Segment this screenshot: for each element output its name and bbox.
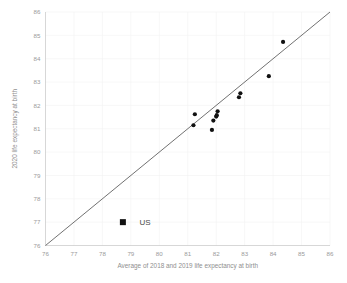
x-tick-label: 86: [327, 250, 334, 257]
y-axis-title: 2020 life expectancy at birth: [11, 89, 19, 169]
data-point: [267, 74, 271, 78]
x-tick-label: 82: [213, 250, 220, 257]
y-tick-label: 80: [34, 148, 41, 155]
x-tick-label: 78: [99, 250, 106, 257]
x-tick-label: 81: [184, 250, 191, 257]
us-legend-label: US: [139, 218, 150, 227]
scatter-plot-figure: 7677787980818283848586 76777879808182838…: [0, 0, 347, 283]
x-tick-label: 77: [71, 250, 78, 257]
x-tick-label: 79: [127, 250, 134, 257]
data-point: [193, 112, 197, 116]
y-tick-label: 86: [34, 8, 41, 15]
y-tick-label: 82: [34, 102, 41, 109]
y-tick-label: 84: [34, 55, 41, 62]
x-tick-label: 80: [156, 250, 163, 257]
us-legend-marker: [120, 219, 126, 225]
y-tick-label: 81: [34, 125, 41, 132]
x-tick-label: 83: [241, 250, 248, 257]
y-tick-label: 83: [34, 78, 41, 85]
data-point: [238, 91, 242, 95]
y-tick-label: 85: [34, 32, 41, 39]
data-point: [237, 95, 241, 99]
y-tick-label: 79: [34, 172, 41, 179]
data-point: [216, 109, 220, 113]
x-axis-title: Average of 2018 and 2019 life expectancy…: [117, 262, 258, 270]
data-point: [211, 118, 215, 122]
y-tick-label: 77: [34, 218, 41, 225]
y-tick-label: 76: [34, 242, 41, 249]
data-point: [210, 128, 214, 132]
chart-canvas: 7677787980818283848586 76777879808182838…: [0, 0, 347, 283]
y-tick-label: 78: [34, 195, 41, 202]
x-tick-label: 85: [298, 250, 305, 257]
data-point: [191, 123, 195, 127]
data-point: [281, 40, 285, 44]
x-tick-label: 76: [42, 250, 49, 257]
data-point: [215, 113, 219, 117]
x-tick-label: 84: [270, 250, 277, 257]
